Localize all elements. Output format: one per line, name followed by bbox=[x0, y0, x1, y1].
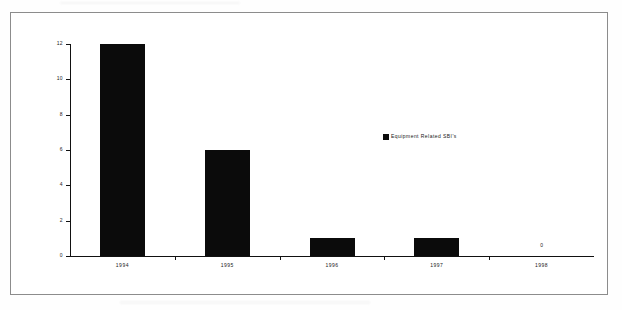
y-tick: 6 bbox=[66, 150, 71, 151]
y-tick-label: 0 bbox=[60, 252, 63, 258]
x-tick bbox=[175, 257, 176, 260]
y-tick: 10 bbox=[66, 79, 71, 80]
chart-frame-border: 024681012 19941995199619971998 0 Equipme… bbox=[10, 12, 608, 295]
bar-value-label: 0 bbox=[540, 242, 543, 248]
y-tick: 0 bbox=[66, 256, 71, 257]
bar bbox=[310, 238, 355, 256]
y-tick-label: 6 bbox=[60, 146, 63, 152]
y-tick: 12 bbox=[66, 44, 71, 45]
y-tick-label: 2 bbox=[60, 217, 63, 223]
x-axis-label: 1995 bbox=[221, 262, 234, 269]
x-axis-label: 1994 bbox=[116, 262, 129, 269]
x-axis-label: 1996 bbox=[325, 262, 338, 269]
y-tick: 4 bbox=[66, 185, 71, 186]
x-tick bbox=[280, 257, 281, 260]
bar-chart-plot-area: 024681012 19941995199619971998 0 Equipme… bbox=[11, 13, 609, 296]
legend-swatch-icon bbox=[383, 134, 389, 140]
y-tick-label: 12 bbox=[57, 40, 63, 46]
scan-artifact-top bbox=[60, 2, 240, 4]
y-tick: 8 bbox=[66, 115, 71, 116]
scanned-chart-page: 024681012 19941995199619971998 0 Equipme… bbox=[0, 0, 622, 310]
bar bbox=[414, 238, 459, 256]
x-axis-line bbox=[70, 256, 594, 257]
x-axis-label: 1998 bbox=[535, 262, 548, 269]
x-axis-label: 1997 bbox=[430, 262, 443, 269]
y-tick: 2 bbox=[66, 221, 71, 222]
bar bbox=[100, 44, 145, 256]
bar bbox=[205, 150, 250, 256]
y-tick-label: 10 bbox=[57, 75, 63, 81]
chart-legend: Equipment Related SBI's bbox=[383, 133, 457, 140]
x-tick bbox=[384, 257, 385, 260]
y-tick-label: 4 bbox=[60, 181, 63, 187]
scan-artifact-bottom bbox=[120, 301, 370, 304]
x-tick bbox=[489, 257, 490, 260]
legend-label: Equipment Related SBI's bbox=[391, 133, 457, 140]
y-tick-label: 8 bbox=[60, 111, 63, 117]
